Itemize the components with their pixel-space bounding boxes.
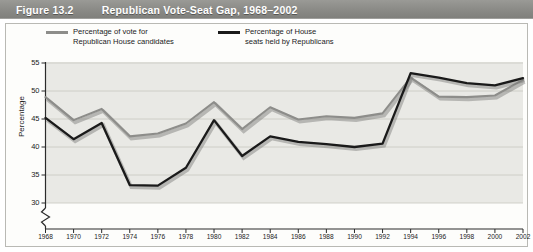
figure-header-bar: Figure 13.2 Republican Vote-Seat Gap, 19… bbox=[0, 0, 533, 19]
legend-swatch-seats-icon bbox=[218, 31, 240, 34]
legend-item-vote: Percentage of vote for Republican House … bbox=[46, 27, 218, 53]
legend-swatch-vote-icon bbox=[46, 31, 68, 34]
legend-item-seats: Percentage of House seats held by Republ… bbox=[218, 27, 334, 53]
figure-number: Figure 13.2 bbox=[16, 4, 74, 16]
legend-label-vote: Percentage of vote for Republican House … bbox=[73, 27, 174, 46]
chart-legend: Percentage of vote for Republican House … bbox=[46, 27, 446, 53]
legend-label-seats: Percentage of House seats held by Republ… bbox=[245, 27, 334, 46]
figure-panel bbox=[5, 23, 528, 247]
figure-title: Republican Vote-Seat Gap, 1968–2002 bbox=[102, 4, 298, 16]
